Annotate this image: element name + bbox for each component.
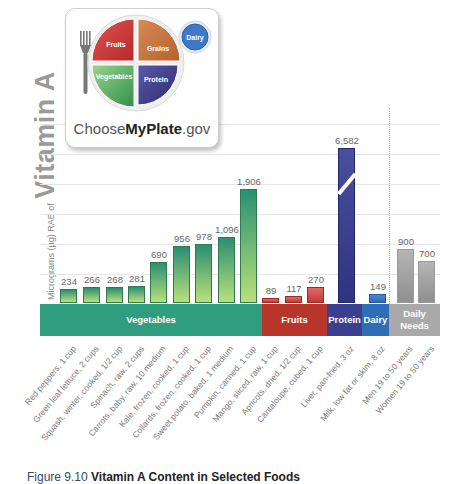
bar xyxy=(195,244,212,303)
value-label: 700 xyxy=(407,248,447,259)
value-label: 1,906 xyxy=(229,176,269,187)
gridline xyxy=(40,154,440,155)
plate-fruits-label: Fruits xyxy=(106,41,126,48)
bar xyxy=(83,287,100,303)
bar xyxy=(128,286,145,303)
y-axis-label: Micrograms (µg) RAE of Vitamin A xyxy=(0,0,48,310)
choosemyplate-wordmark: ChooseMyPlate.gov xyxy=(66,120,218,137)
bar xyxy=(60,289,77,303)
bar xyxy=(150,262,167,303)
plate-protein-label: Protein xyxy=(144,76,168,83)
bar xyxy=(369,294,386,303)
figure-caption: Figure 9.10 Vitamin A Content in Selecte… xyxy=(27,470,300,484)
bar xyxy=(307,287,324,303)
daily-needs-divider xyxy=(389,108,390,304)
bar xyxy=(262,298,279,303)
bar xyxy=(418,261,435,303)
value-label: 6,582 xyxy=(327,135,367,146)
plate-grains-label: Grains xyxy=(147,45,169,52)
plate-dairy-label: Dairy xyxy=(186,34,204,42)
value-label: 149 xyxy=(358,281,398,292)
band-dairy: Dairy xyxy=(362,304,389,336)
plate-vegetables-label: Vegetables xyxy=(96,73,133,81)
value-label: 270 xyxy=(296,274,336,285)
myplate-icon: Fruits Grains Vegetables Protein Dairy xyxy=(66,9,218,119)
bar xyxy=(285,296,302,303)
bar xyxy=(173,246,190,303)
bar xyxy=(338,148,355,303)
myplate-logo: Fruits Grains Vegetables Protein Dairy C… xyxy=(65,8,219,148)
band-protein: Protein xyxy=(327,304,362,336)
band-daily-needs: Daily Needs xyxy=(389,304,440,336)
y-axis-title: Vitamin A xyxy=(30,71,60,199)
band-vegetables: Vegetables xyxy=(40,304,262,336)
bar xyxy=(106,287,123,303)
band-fruits: Fruits xyxy=(262,304,327,336)
value-label: 900 xyxy=(386,236,426,247)
bar xyxy=(218,237,235,303)
